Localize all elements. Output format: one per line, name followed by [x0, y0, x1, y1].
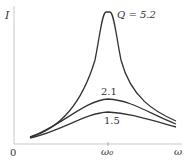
omega0-label: ω₀: [101, 147, 113, 157]
curve-q-1-5: [30, 112, 176, 138]
x-axis-label: ω: [174, 147, 182, 157]
curve-q-5-2: [30, 12, 176, 137]
curve-label-q-5-2: Q = 5.2: [117, 10, 156, 20]
resonance-chart: [0, 0, 187, 161]
origin-label: 0: [10, 148, 16, 158]
curve-label-1-5: 1.5: [104, 116, 120, 126]
curve-label-2-1: 2.1: [101, 87, 117, 97]
y-axis-label: I: [5, 10, 9, 21]
